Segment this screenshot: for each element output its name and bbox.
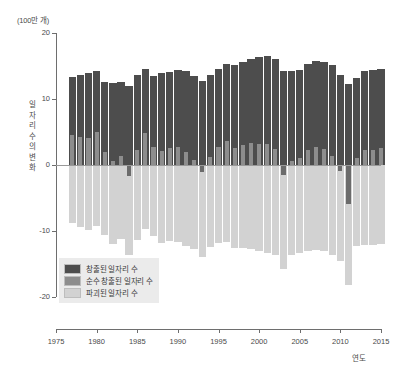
y-tick-label-text: -20 — [39, 292, 50, 302]
bar-jobs-created — [109, 83, 116, 166]
bar-jobs-created — [199, 81, 206, 165]
bar-jobs-destroyed — [93, 165, 100, 226]
bar-jobs-destroyed — [166, 165, 173, 241]
bar-jobs-created — [288, 71, 295, 165]
bar-net-jobs-created — [249, 143, 253, 165]
legend-item-label: 파괴된 일자리 수 — [86, 287, 137, 298]
x-tick-label-text: 2015 — [363, 336, 399, 347]
bar-jobs-created — [280, 71, 287, 165]
bar-net-jobs-created — [119, 156, 123, 165]
y-unit-label: (100만 개) — [17, 14, 49, 25]
bar-jobs-destroyed — [329, 165, 336, 255]
bar-jobs-destroyed — [134, 165, 141, 240]
x-tick-label-text: 1995 — [201, 336, 237, 347]
bar-jobs-created — [190, 76, 197, 165]
bar-jobs-destroyed — [207, 165, 214, 247]
bar-net-jobs-created — [70, 135, 74, 165]
bar-jobs-destroyed — [296, 165, 303, 253]
bar-net-jobs-created — [233, 148, 237, 165]
chart-container: (100만 개) 일자리 수의 변화 연도 20100-10-20 197519… — [0, 0, 406, 378]
x-tick-label-text: 1980 — [79, 336, 115, 347]
legend-item-label: 창출된 일자리 수 — [86, 263, 137, 274]
x-tick-mark — [97, 329, 98, 333]
bar-jobs-destroyed — [174, 165, 181, 242]
bar-net-jobs-created — [241, 145, 245, 165]
bar-jobs-destroyed — [247, 165, 254, 249]
bar-jobs-created — [182, 71, 189, 165]
bar-jobs-destroyed — [272, 165, 279, 255]
bar-jobs-destroyed — [255, 165, 262, 251]
bar-net-jobs-created — [184, 152, 188, 165]
bar-net-jobs-created — [257, 144, 261, 165]
bar-net-jobs-created — [176, 147, 180, 165]
bar-net-jobs-created — [306, 150, 310, 165]
bar-jobs-created — [337, 75, 344, 165]
y-tick-label-text: 20 — [42, 28, 50, 38]
bar-jobs-destroyed — [182, 165, 189, 246]
bar-jobs-destroyed — [117, 165, 124, 239]
bar-net-jobs-created — [346, 165, 350, 204]
bar-net-jobs-created — [168, 148, 172, 165]
legend-item-label: 순수 창출된 일자리 수 — [86, 275, 153, 286]
bar-jobs-created — [207, 75, 214, 165]
y-tick-label-text: 10 — [42, 94, 50, 104]
bar-jobs-destroyed — [369, 165, 376, 245]
bar-net-jobs-created — [103, 152, 107, 165]
legend-swatch-icon — [64, 288, 81, 298]
bar-jobs-destroyed — [312, 165, 319, 250]
x-tick-mark — [137, 329, 138, 333]
bar-jobs-destroyed — [85, 165, 92, 230]
bar-jobs-destroyed — [361, 165, 368, 245]
bar-net-jobs-created — [265, 144, 269, 165]
bar-jobs-destroyed — [280, 165, 287, 269]
bar-jobs-created — [125, 86, 132, 165]
bar-net-jobs-created — [298, 158, 302, 165]
x-tick-mark — [178, 329, 179, 333]
x-tick-label-text: 1990 — [160, 336, 196, 347]
bar-net-jobs-created — [143, 133, 147, 165]
y-tick-label-text: 0 — [46, 160, 50, 170]
bar-jobs-created — [296, 70, 303, 165]
x-tick-mark — [381, 329, 382, 333]
y-tick-mark — [52, 297, 56, 298]
bar-jobs-created — [117, 82, 124, 165]
bar-jobs-destroyed — [320, 165, 327, 251]
x-tick-label-text: 2000 — [241, 336, 277, 347]
x-tick-mark — [219, 329, 220, 333]
bar-net-jobs-created — [371, 150, 375, 165]
bar-net-jobs-created — [86, 138, 90, 165]
legend-item[interactable]: 창출된 일자리 수 — [64, 263, 153, 274]
bar-jobs-created — [329, 65, 336, 165]
bar-net-jobs-created — [160, 151, 164, 165]
bar-jobs-destroyed — [377, 165, 384, 244]
legend-item[interactable]: 파괴된 일자리 수 — [64, 287, 153, 298]
bar-net-jobs-created — [225, 141, 229, 165]
bar-jobs-destroyed — [304, 165, 311, 251]
bar-jobs-destroyed — [353, 165, 360, 246]
legend-swatch-icon — [64, 264, 81, 274]
bar-jobs-destroyed — [264, 165, 271, 253]
bar-net-jobs-created — [216, 147, 220, 165]
x-tick-label-text: 2010 — [322, 336, 358, 347]
x-tick-label: 1975 — [38, 336, 74, 347]
bar-net-jobs-created — [151, 147, 155, 165]
x-tick-label: 2005 — [282, 336, 318, 347]
y-tick-label: -10 — [20, 226, 50, 236]
bar-net-jobs-created — [78, 137, 82, 165]
bar-net-jobs-created — [355, 158, 359, 165]
x-tick-label-text: 2005 — [282, 336, 318, 347]
x-tick-mark — [259, 329, 260, 333]
bar-jobs-destroyed — [150, 165, 157, 236]
x-tick-label: 1990 — [160, 336, 196, 347]
y-tick-label: 10 — [20, 94, 50, 104]
bar-net-jobs-created — [135, 150, 139, 165]
x-tick-label: 1980 — [79, 336, 115, 347]
y-tick-label: 0 — [20, 160, 50, 170]
x-tick-label-text: 1975 — [38, 336, 74, 347]
legend-item[interactable]: 순수 창출된 일자리 수 — [64, 275, 153, 286]
bar-jobs-created — [353, 78, 360, 165]
bar-jobs-destroyed — [231, 165, 238, 248]
bar-jobs-destroyed — [215, 165, 222, 243]
bar-jobs-destroyed — [69, 165, 76, 223]
bar-jobs-destroyed — [142, 165, 149, 229]
